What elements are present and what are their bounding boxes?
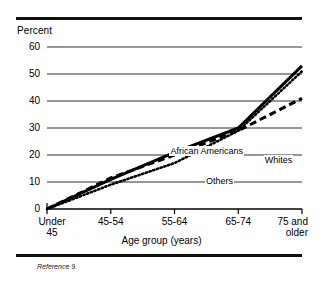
series-label-whites: Whites [264,155,294,165]
reference-note: Reference 9. [37,263,77,270]
data-series [47,66,302,209]
y-tick-label: 50 [14,69,40,79]
figure-panel: Percent 0102030405060 Under 4545-5455-64… [0,0,323,287]
y-tick-label: 30 [14,123,40,133]
y-tick-label: 60 [14,42,40,52]
series-label-african-americans: African Americans [169,146,244,156]
bottom-rule [16,254,302,257]
x-tick-marks [47,209,302,214]
y-tick-label: 10 [14,177,40,187]
x-tick-label: 55-64 [145,216,205,227]
x-tick-label: 45-54 [81,216,141,227]
series-line-african-americans [47,66,302,209]
y-tick-label: 0 [14,204,40,214]
y-tick-label: 20 [14,150,40,160]
x-axis-title: Age group (years) [0,235,323,246]
axis-lines [47,203,302,209]
y-tick-label: 40 [14,96,40,106]
series-line-others [47,71,302,209]
series-label-others: Others [205,176,234,186]
